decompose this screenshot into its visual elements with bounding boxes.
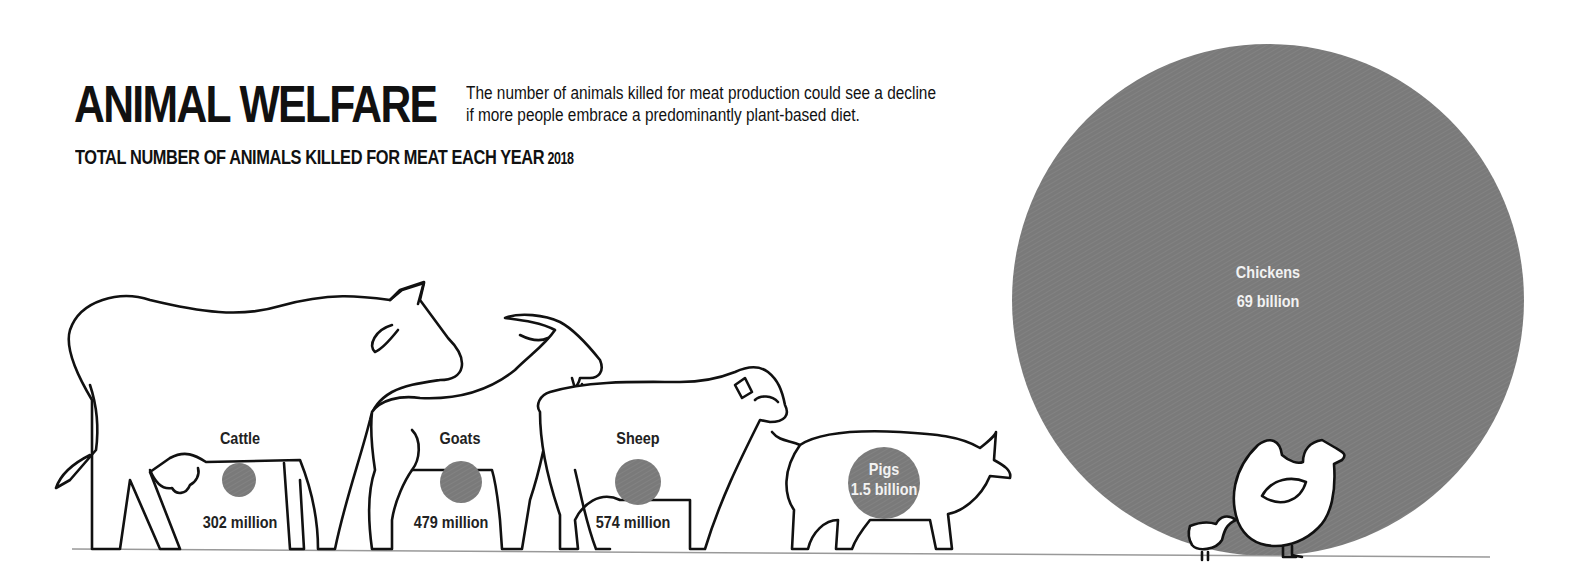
pigs-label: Pigs — [850, 460, 918, 480]
cattle-bubble — [222, 463, 256, 497]
goats-value: 479 million — [404, 513, 498, 533]
chickens-value: 69 billion — [1221, 292, 1315, 312]
pigs-value: 1.5 billion — [842, 480, 927, 500]
cattle-label: Cattle — [206, 429, 274, 449]
goats-label: Goats — [426, 429, 494, 449]
sheep-bubble — [615, 459, 661, 505]
cattle-value: 302 million — [198, 513, 283, 533]
sheep-value: 574 million — [586, 513, 680, 533]
chart-artwork — [0, 0, 1592, 575]
chickens-label: Chickens — [1226, 263, 1311, 283]
goats-bubble — [440, 461, 482, 503]
sheep-label: Sheep — [604, 429, 672, 449]
